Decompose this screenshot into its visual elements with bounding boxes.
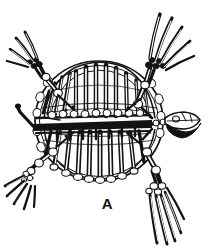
front-left-flipper: [7, 32, 62, 97]
front-right-flipper: [133, 14, 194, 108]
figure-label: A: [0, 196, 215, 212]
turtle-skeleton-illustration: [0, 0, 215, 251]
tail: [15, 103, 33, 126]
figure-container: A: [0, 0, 215, 251]
